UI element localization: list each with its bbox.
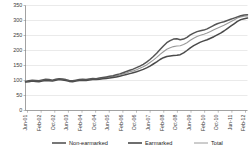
series-line-earmarked	[26, 18, 248, 82]
y-tick-label: 300	[13, 17, 22, 23]
legend-label: Earmarked	[145, 140, 172, 146]
x-tick-label: Oct-08	[172, 115, 178, 131]
x-tick-label: Jun-05	[104, 115, 110, 131]
x-tick-label: Oct-04	[91, 115, 97, 131]
legend-label: Non-earmarked	[69, 140, 108, 146]
x-tick-label: Feb-08	[159, 115, 165, 132]
y-tick-label: 50	[16, 92, 22, 98]
x-tick-label: Jun-03	[63, 115, 69, 131]
x-axis	[26, 111, 248, 113]
x-tick-label: Feb-04	[77, 115, 83, 132]
legend-item[interactable]: Non-earmarked	[52, 140, 108, 146]
y-tick-label: 250	[13, 32, 22, 38]
gridlines	[26, 6, 248, 96]
legend-item[interactable]: Total	[194, 140, 223, 146]
y-tick-labels: 050100150200250300350	[13, 2, 22, 113]
y-axis	[24, 6, 26, 111]
x-tick-label: Feb-10	[200, 115, 206, 132]
x-tick-label: Feb-06	[118, 115, 124, 132]
y-tick-label: 0	[19, 107, 22, 113]
x-tick-label: Jun-01	[23, 115, 29, 131]
legend-label: Total	[211, 140, 223, 146]
x-tick-label: Oct-02	[50, 115, 56, 131]
x-tick-label: Oct-06	[132, 115, 138, 131]
chart-legend: Non-earmarkedEarmarkedTotal	[52, 140, 223, 146]
x-tick-label: Feb-12	[241, 115, 247, 132]
y-tick-label: 150	[13, 62, 22, 68]
y-tick-label: 100	[13, 77, 22, 83]
x-tick-label: Jun-09	[186, 115, 192, 131]
line-chart: 050100150200250300350 Jun-01Feb-02Oct-02…	[0, 0, 250, 154]
y-tick-label: 350	[13, 2, 22, 8]
x-tick-label: Oct-10	[213, 115, 219, 131]
x-tick-labels: Jun-01Feb-02Oct-02Jun-03Feb-04Oct-04Jun-…	[23, 115, 247, 132]
y-tick-label: 200	[13, 47, 22, 53]
x-tick-label: Feb-02	[36, 115, 42, 132]
data-series-group	[26, 15, 248, 82]
x-tick-label: Jun-11	[227, 115, 233, 131]
chart-canvas: 050100150200250300350 Jun-01Feb-02Oct-02…	[0, 0, 250, 154]
legend-item[interactable]: Earmarked	[128, 140, 172, 146]
x-tick-label: Jun-07	[145, 115, 151, 131]
